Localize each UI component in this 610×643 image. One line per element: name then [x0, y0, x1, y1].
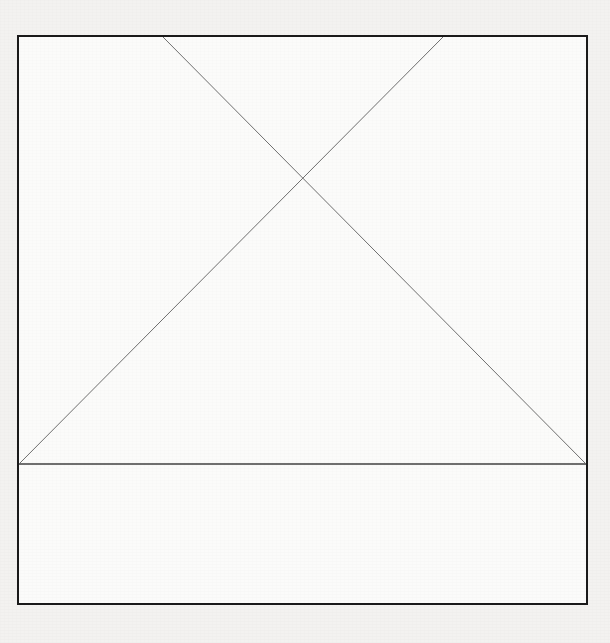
- placeholder-graphic: [0, 0, 610, 643]
- placeholder-stage: [0, 0, 610, 643]
- placeholder-frame: [18, 36, 587, 604]
